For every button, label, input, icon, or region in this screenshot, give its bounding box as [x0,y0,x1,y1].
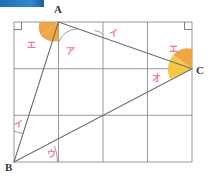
point-label-B: B [5,161,13,173]
angle-label-c-o: オ [152,73,161,83]
angle-label-a-a-right: ア [66,46,75,56]
accent-bar [0,0,44,7]
figure-background [0,0,208,179]
angle-label-a-e-left: エ [27,40,36,50]
angle-label-b-u: ウ [47,149,56,159]
angle-label-top-i: イ [109,28,118,38]
angle-label-b-i: イ [14,119,23,129]
angle-label-c-e: エ [169,44,178,54]
geometry-figure: A B C エ ア イ エ オ イ ウ [0,0,208,179]
point-label-C: C [196,64,204,76]
point-label-A: A [54,3,62,15]
figure-canvas: A B C エ ア イ エ オ イ ウ [0,0,208,179]
